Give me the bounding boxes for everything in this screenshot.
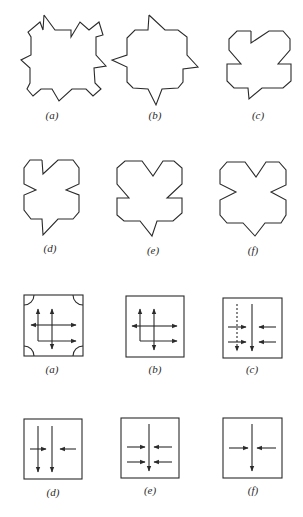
label-bottom-a: (a) (46, 363, 59, 376)
arrow-box-a (24, 295, 83, 356)
label-bottom-b: (b) (149, 363, 162, 376)
arrow-box-e (121, 418, 179, 478)
polygon-d (24, 160, 79, 235)
polygon-b (112, 15, 198, 105)
label-top-a: (a) (46, 109, 59, 122)
polygon-a (21, 15, 106, 101)
polygon-e (117, 161, 182, 236)
figure-canvas: (a) (b) (c) (d) (e) (f) (a) (b) (c) (d) … (0, 0, 303, 517)
label-top-f: (f) (248, 244, 259, 257)
arrow-box-c (223, 298, 282, 358)
label-bottom-c: (c) (246, 363, 259, 376)
label-bottom-e: (e) (144, 484, 157, 497)
label-top-c: (c) (252, 109, 265, 122)
arrow-box-f (223, 418, 282, 478)
arrow-box-b (126, 296, 184, 357)
label-top-d: (d) (44, 242, 57, 255)
label-bottom-d: (d) (47, 486, 60, 499)
arrow-box-d (24, 419, 82, 479)
polygon-f (220, 162, 286, 236)
label-bottom-f: (f) (248, 484, 259, 497)
label-top-b: (b) (149, 109, 162, 122)
polygon-c (227, 31, 291, 99)
label-top-e: (e) (147, 244, 160, 257)
